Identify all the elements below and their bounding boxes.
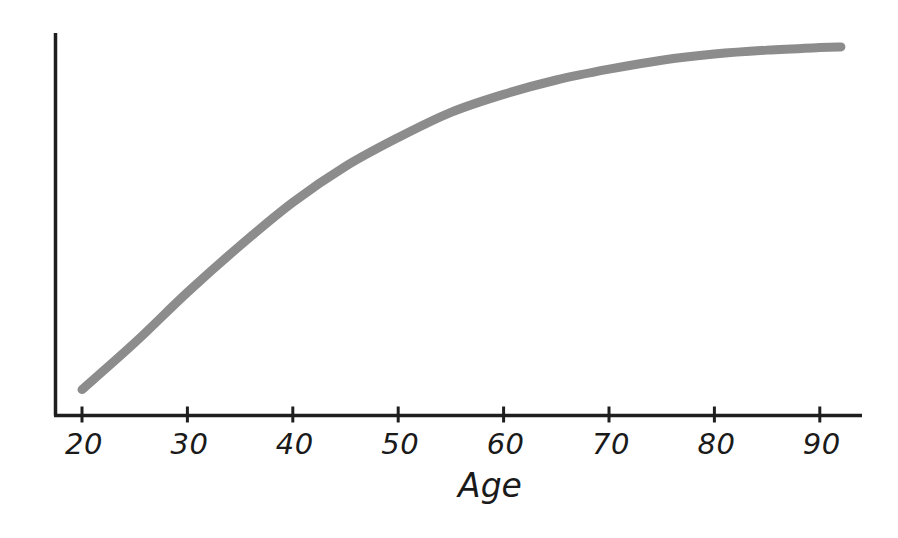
chart-background [0, 0, 898, 538]
x-axis-tick-label: 30 [170, 427, 208, 461]
x-axis-tick-label: 80 [697, 427, 735, 461]
x-axis-tick-label: 90 [803, 427, 841, 461]
chart-page: 2030405060708090 Age [0, 0, 898, 538]
x-axis-tick-label: 60 [487, 427, 525, 461]
age-curve-chart: 2030405060708090 Age [0, 0, 898, 538]
x-axis-tick-label: 70 [592, 427, 630, 461]
x-axis-title: Age [456, 466, 522, 505]
x-axis-tick-label: 50 [381, 427, 419, 461]
x-axis-tick-label: 20 [65, 427, 103, 461]
x-axis-tick-label: 40 [276, 427, 314, 461]
